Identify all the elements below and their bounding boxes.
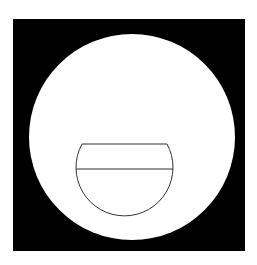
bowl-diagram [0,0,257,265]
white-circle [29,34,235,240]
